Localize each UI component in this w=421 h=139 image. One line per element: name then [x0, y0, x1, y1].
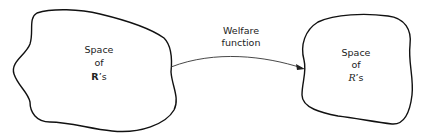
welfare-function-arrow [171, 56, 302, 68]
left-region-line1: Space [85, 44, 114, 55]
left-region-line3: R’s [91, 71, 106, 82]
arrow-label-line1: Welfare [223, 25, 259, 36]
italic-r-symbol: R [347, 72, 355, 83]
right-region-line1: Space [342, 47, 371, 58]
right-region-line2: of [351, 59, 361, 70]
arrowhead-icon [296, 64, 305, 70]
right-region-line3: R’s [347, 72, 363, 83]
left-region-line2: of [94, 57, 104, 68]
welfare-function-diagram: Space of R’s Welfare function Space of R… [0, 0, 421, 139]
arrow-label-line2: function [222, 37, 261, 48]
